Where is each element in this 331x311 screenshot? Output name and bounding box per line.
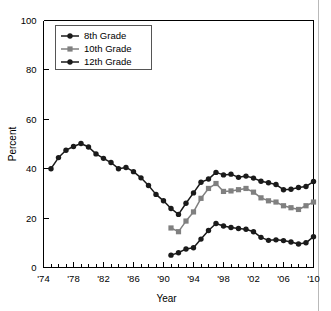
data-point	[56, 155, 61, 160]
data-point	[206, 228, 211, 233]
x-tick-label: '74	[37, 273, 49, 284]
data-point	[48, 166, 53, 171]
data-point	[236, 226, 241, 231]
data-point	[168, 225, 173, 230]
line-chart: 020406080100 '74'78'82'86'90'94'98'02'06…	[0, 0, 331, 311]
x-tick-label: '86	[127, 273, 139, 284]
data-point	[221, 223, 226, 228]
data-point	[243, 173, 248, 178]
data-point	[281, 187, 286, 192]
data-point	[78, 141, 83, 146]
y-axis-title: Percent	[7, 127, 18, 162]
data-point	[168, 206, 173, 211]
legend-marker	[67, 46, 72, 51]
legend-item-label: 8th Grade	[84, 30, 126, 41]
data-point	[183, 218, 188, 223]
x-tick-label: '90	[157, 273, 169, 284]
data-point	[213, 181, 218, 186]
data-point	[266, 238, 271, 243]
x-tick-label: '98	[217, 273, 229, 284]
data-point	[153, 192, 158, 197]
y-tick-label: 40	[26, 163, 37, 174]
data-point	[243, 186, 248, 191]
data-point	[221, 189, 226, 194]
x-tick-label: '94	[187, 273, 199, 284]
data-point	[258, 195, 263, 200]
x-tick-label: '82	[97, 273, 109, 284]
data-point	[86, 144, 91, 149]
y-tick-label: 0	[31, 262, 36, 273]
legend-marker	[67, 59, 72, 64]
data-point	[228, 225, 233, 230]
y-tick-label: 20	[26, 213, 37, 224]
chart-legend: 8th Grade10th Grade12th Grade	[56, 26, 152, 70]
y-tick-label: 100	[21, 15, 37, 26]
data-point	[191, 209, 196, 214]
data-point	[228, 171, 233, 176]
data-point	[138, 175, 143, 180]
chart-background	[0, 0, 331, 311]
chart-container: 020406080100 '74'78'82'86'90'94'98'02'06…	[0, 0, 331, 311]
data-point	[228, 188, 233, 193]
data-point	[206, 176, 211, 181]
data-point	[296, 185, 301, 190]
data-point	[161, 198, 166, 203]
y-tick-label: 80	[26, 64, 37, 75]
data-point	[183, 201, 188, 206]
data-point	[251, 175, 256, 180]
data-point	[266, 180, 271, 185]
data-point	[176, 229, 181, 234]
data-point	[176, 212, 181, 217]
data-point	[198, 180, 203, 185]
data-point	[108, 160, 113, 165]
x-tick-label: '10	[307, 273, 319, 284]
data-point	[93, 151, 98, 156]
data-point	[296, 241, 301, 246]
x-tick-label: '78	[67, 273, 79, 284]
data-point	[183, 246, 188, 251]
data-point	[198, 236, 203, 241]
data-point	[303, 184, 308, 189]
data-point	[281, 238, 286, 243]
data-point	[213, 170, 218, 175]
data-point	[71, 144, 76, 149]
legend-item-label: 10th Grade	[84, 43, 132, 54]
data-point	[213, 221, 218, 226]
data-point	[296, 207, 301, 212]
data-point	[131, 169, 136, 174]
data-point	[273, 182, 278, 187]
legend-marker	[67, 33, 72, 38]
data-point	[191, 190, 196, 195]
data-point	[311, 179, 316, 184]
data-point	[221, 172, 226, 177]
data-point	[303, 240, 308, 245]
data-point	[273, 199, 278, 204]
data-point	[311, 199, 316, 204]
data-point	[288, 205, 293, 210]
data-point	[198, 196, 203, 201]
data-point	[251, 229, 256, 234]
data-point	[288, 187, 293, 192]
x-tick-label: '02	[247, 273, 259, 284]
data-point	[236, 175, 241, 180]
x-tick-label: '06	[277, 273, 289, 284]
data-point	[176, 250, 181, 255]
data-point	[206, 186, 211, 191]
data-point	[251, 190, 256, 195]
data-point	[258, 235, 263, 240]
data-point	[101, 156, 106, 161]
x-axis-title: Year	[156, 293, 177, 304]
data-point	[168, 252, 173, 257]
data-point	[281, 203, 286, 208]
data-point	[311, 234, 316, 239]
data-point	[116, 166, 121, 171]
data-point	[266, 198, 271, 203]
data-point	[243, 227, 248, 232]
data-point	[123, 165, 128, 170]
data-point	[303, 203, 308, 208]
data-point	[288, 239, 293, 244]
data-point	[63, 147, 68, 152]
y-tick-label: 60	[26, 114, 37, 125]
legend-item-label: 12th Grade	[84, 56, 132, 67]
data-point	[273, 237, 278, 242]
